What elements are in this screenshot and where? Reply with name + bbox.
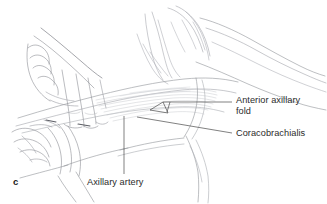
figure-letter: c [13, 176, 18, 187]
figure-panel-c: Anterior axillary fold Coracobrachialis … [0, 0, 327, 204]
label-coracobrachialis: Coracobrachialis [236, 128, 327, 139]
leader-lines [124, 102, 232, 174]
leader-anterior-axillary-fold-tick [167, 102, 170, 112]
label-axillary-artery: Axillary artery [87, 177, 187, 188]
label-anterior-axillary-fold: Anterior axillary fold [236, 95, 327, 116]
leader-anterior-axillary-fold-arrow [150, 102, 168, 113]
leader-coracobrachialis [137, 117, 232, 133]
